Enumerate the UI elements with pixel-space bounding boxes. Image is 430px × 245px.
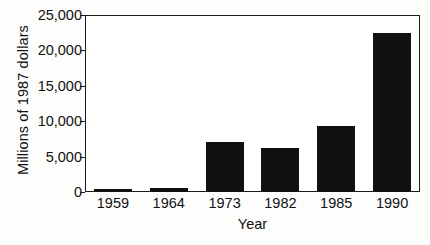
y-tick-label: 10,000	[20, 114, 82, 129]
x-axis-title: Year	[85, 216, 420, 232]
y-tick-label: 25,000	[20, 8, 82, 23]
y-tick-mark	[80, 192, 85, 193]
y-tick-label: 15,000	[20, 79, 82, 94]
x-tick-label: 1982	[252, 195, 308, 211]
x-tick-label: 1959	[85, 195, 141, 211]
y-tick-label: 5,000	[20, 150, 82, 165]
x-tick-label: 1985	[308, 195, 364, 211]
bar-chart: Millions of 1987 dollars 25,000 20,000 1…	[0, 0, 430, 245]
bar	[317, 126, 355, 192]
x-tick-label: 1990	[364, 195, 420, 211]
x-axis-tick-labels: 195919641973198219851990	[85, 195, 420, 215]
bars-layer	[85, 15, 420, 192]
bar	[150, 188, 188, 192]
bar	[261, 148, 299, 192]
x-tick-label: 1964	[141, 195, 197, 211]
y-tick-label: 20,000	[20, 43, 82, 58]
bar	[94, 189, 132, 192]
bar	[373, 33, 411, 192]
bar	[206, 142, 244, 192]
y-axis-tick-labels: 25,000 20,000 15,000 10,000 5,000 0	[20, 0, 82, 245]
x-tick-label: 1973	[197, 195, 253, 211]
y-tick-label: 0	[20, 185, 82, 200]
